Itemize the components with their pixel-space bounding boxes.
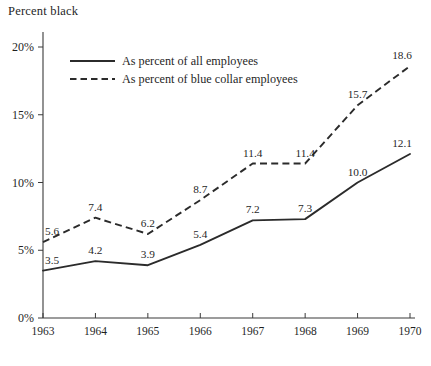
x-tick-label-group: 19631964196519661967196819691970 bbox=[32, 325, 422, 337]
x-tick-label: 1970 bbox=[399, 325, 422, 337]
x-tick-label: 1965 bbox=[136, 325, 159, 337]
data-label-all-employees-3: 5.4 bbox=[193, 228, 207, 240]
y-tick-label: 10% bbox=[12, 176, 34, 190]
data-label-all-employees-7: 12.1 bbox=[392, 137, 412, 149]
legend-item-blue-collar: As percent of blue collar employees bbox=[122, 72, 298, 86]
x-tick-label: 1964 bbox=[84, 325, 107, 337]
x-tick-label: 1967 bbox=[241, 325, 264, 337]
y-tick-group bbox=[38, 47, 43, 318]
data-label-all-employees-2: 3.9 bbox=[141, 248, 155, 260]
x-tick-label: 1969 bbox=[346, 325, 369, 337]
data-label-blue-collar-7: 18.6 bbox=[392, 49, 412, 61]
chart-page: Percent black 0%5%10%15%20% 196319641965… bbox=[0, 0, 431, 366]
line-chart: 0%5%10%15%20% 19631964196519661967196819… bbox=[0, 0, 431, 366]
x-tick-label: 1963 bbox=[32, 325, 55, 337]
data-label-blue-collar-0: 5.6 bbox=[45, 225, 59, 237]
data-label-blue-collar-5: 11.4 bbox=[295, 147, 315, 159]
data-label-blue-collar-4: 11.4 bbox=[243, 147, 263, 159]
x-tick-label: 1968 bbox=[294, 325, 317, 337]
data-label-blue-collar-2: 6.2 bbox=[141, 217, 155, 229]
x-tick-group bbox=[43, 313, 410, 318]
data-label-all-employees-5: 7.3 bbox=[298, 202, 312, 214]
data-label-all-employees-0: 3.5 bbox=[45, 254, 59, 266]
y-tick-label: 15% bbox=[12, 108, 34, 122]
y-tick-label: 5% bbox=[18, 243, 34, 257]
y-tick-label-group: 0%5%10%15%20% bbox=[12, 40, 34, 325]
data-label-blue-collar-1: 7.4 bbox=[88, 201, 102, 213]
data-label-blue-collar-6: 15.7 bbox=[348, 88, 368, 100]
data-label-all-employees-4: 7.2 bbox=[246, 203, 260, 215]
data-label-all-employees-1: 4.2 bbox=[88, 244, 102, 256]
x-tick-label: 1966 bbox=[189, 325, 212, 337]
legend-item-all-employees: As percent of all employees bbox=[122, 54, 258, 68]
y-tick-label: 0% bbox=[18, 311, 34, 325]
legend: As percent of all employees As percent o… bbox=[70, 54, 298, 86]
y-tick-label: 20% bbox=[12, 40, 34, 54]
data-label-blue-collar-3: 8.7 bbox=[193, 183, 207, 195]
data-label-all-employees-6: 10.0 bbox=[348, 166, 368, 178]
